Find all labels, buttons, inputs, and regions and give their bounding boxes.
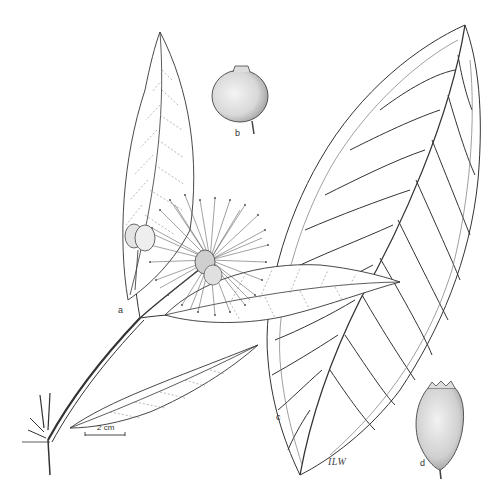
label-a: a xyxy=(118,305,123,315)
artist-signature: ILW xyxy=(328,456,346,467)
label-b: b xyxy=(235,128,240,138)
fruit-b xyxy=(212,66,268,134)
label-c: c xyxy=(276,412,281,422)
label-d: d xyxy=(420,458,425,468)
upper-leaf xyxy=(123,32,194,300)
main-stem xyxy=(22,240,220,475)
scale-bar-label: 2 cm xyxy=(97,423,114,432)
scale-bar xyxy=(85,432,125,436)
lower-leaf xyxy=(70,345,258,428)
botanical-plate xyxy=(0,0,501,501)
